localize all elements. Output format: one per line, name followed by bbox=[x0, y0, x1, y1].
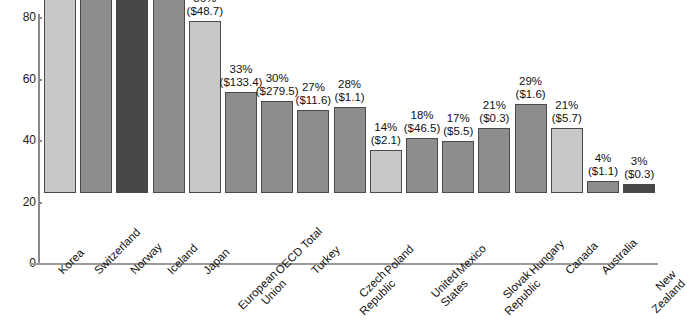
bar-amount-value: ($11.6) bbox=[296, 94, 332, 107]
bar-value-label: 18%($46.5) bbox=[404, 109, 440, 135]
bar-percent-value: 30% bbox=[256, 72, 299, 85]
x-category-label: NewZealand bbox=[640, 268, 687, 315]
bar[interactable] bbox=[44, 0, 76, 193]
bar-percent-value: 3% bbox=[624, 155, 654, 168]
bar-amount-value: ($46.5) bbox=[404, 122, 440, 135]
bar-value-label: 27%($11.6) bbox=[296, 81, 332, 107]
bar[interactable] bbox=[189, 21, 221, 193]
bar-percent-value: 29% bbox=[516, 75, 546, 88]
bar-amount-value: ($1.1) bbox=[588, 165, 618, 178]
bar-group[interactable]: 21%($5.7) bbox=[551, 88, 583, 193]
bar-group[interactable]: 68%($3.0) bbox=[116, 0, 148, 193]
bar-value-label: 30%($279.5) bbox=[256, 72, 299, 98]
plot-area: 63%($19.8)68%($5.8)68%($3.0)69%($0.2)56%… bbox=[0, 0, 660, 265]
bar-amount-value: ($48.7) bbox=[187, 5, 223, 18]
bar[interactable] bbox=[261, 101, 293, 193]
bar[interactable] bbox=[225, 92, 257, 193]
bar[interactable] bbox=[80, 0, 112, 193]
bar[interactable] bbox=[442, 141, 474, 193]
bar-value-label: 3%($0.3) bbox=[624, 155, 654, 181]
bar[interactable] bbox=[370, 150, 402, 193]
bar-amount-value: ($0.3) bbox=[479, 112, 509, 125]
bar-value-label: 21%($5.7) bbox=[552, 99, 582, 125]
bar[interactable] bbox=[297, 110, 329, 193]
bar-amount-value: ($279.5) bbox=[256, 85, 299, 98]
bar-value-label: 29%($1.6) bbox=[516, 75, 546, 101]
bar-group[interactable]: 56%($48.7) bbox=[189, 0, 221, 193]
bar-percent-value: 28% bbox=[335, 78, 365, 91]
bar-percent-value: 14% bbox=[371, 121, 401, 134]
bar-value-label: 28%($1.1) bbox=[335, 78, 365, 104]
bar-percent-value: 18% bbox=[404, 109, 440, 122]
bar-group[interactable]: 27%($11.6) bbox=[297, 70, 329, 193]
bar-amount-value: ($5.7) bbox=[552, 112, 582, 125]
bar-percent-value: 27% bbox=[296, 81, 332, 94]
bar[interactable] bbox=[623, 184, 655, 193]
bar-group[interactable]: 30%($279.5) bbox=[261, 61, 293, 193]
bar-group[interactable]: 3%($0.3) bbox=[623, 144, 655, 193]
bar[interactable] bbox=[153, 0, 185, 193]
bar-value-label: 17%($5.5) bbox=[443, 112, 473, 138]
bar-group[interactable]: 21%($0.3) bbox=[478, 88, 510, 193]
bar-value-label: 4%($1.1) bbox=[588, 152, 618, 178]
bar-percent-value: 4% bbox=[588, 152, 618, 165]
bar-group[interactable]: 68%($5.8) bbox=[80, 0, 112, 193]
bar-amount-value: ($5.5) bbox=[443, 125, 473, 138]
bar[interactable] bbox=[551, 128, 583, 193]
bar-amount-value: ($1.6) bbox=[516, 88, 546, 101]
bar-value-label: 21%($0.3) bbox=[479, 99, 509, 125]
bar-value-label: 14%($2.1) bbox=[371, 121, 401, 147]
bar-group[interactable]: 17%($5.5) bbox=[442, 101, 474, 193]
bar-group[interactable]: 14%($2.1) bbox=[370, 110, 402, 193]
bar-amount-value: ($1.1) bbox=[335, 91, 365, 104]
bar[interactable] bbox=[334, 107, 366, 193]
bar-percent-value: 21% bbox=[552, 99, 582, 112]
bar-group[interactable]: 69%($0.2) bbox=[153, 0, 185, 193]
bar[interactable] bbox=[478, 128, 510, 193]
bar-percent-value: 17% bbox=[443, 112, 473, 125]
bar-group[interactable]: 4%($1.1) bbox=[587, 141, 619, 193]
bar-group[interactable]: 33%($133.4) bbox=[225, 52, 257, 193]
bar-percent-value: 21% bbox=[479, 99, 509, 112]
bar[interactable] bbox=[587, 181, 619, 193]
bar-group[interactable]: 18%($46.5) bbox=[406, 98, 438, 193]
bar-group[interactable]: 28%($1.1) bbox=[334, 67, 366, 193]
bar-amount-value: ($0.3) bbox=[624, 168, 654, 181]
bar-amount-value: ($2.1) bbox=[371, 134, 401, 147]
bar-group[interactable]: 63%($19.8) bbox=[44, 0, 76, 193]
bar-group[interactable]: 29%($1.6) bbox=[515, 64, 547, 193]
bar[interactable] bbox=[406, 138, 438, 193]
bar[interactable] bbox=[116, 0, 148, 193]
bar[interactable] bbox=[515, 104, 547, 193]
bar-value-label: 56%($48.7) bbox=[187, 0, 223, 18]
